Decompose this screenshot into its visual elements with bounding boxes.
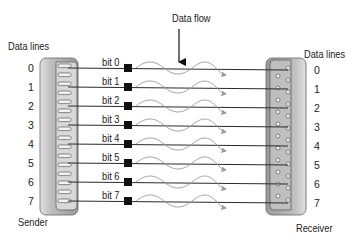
bit-label: bit 4: [102, 132, 119, 144]
bit-label: bit 0: [102, 56, 119, 68]
sender-line-number: 0: [28, 62, 34, 74]
bit-label: bit 5: [102, 151, 119, 163]
sender-data-lines-heading: Data lines: [8, 40, 49, 52]
receiver-line-number: 4: [314, 140, 320, 152]
sender-line-number: 7: [28, 195, 34, 207]
signal-wave-arrows: [136, 62, 226, 208]
diagram-graphics: [0, 0, 354, 242]
bit-label: bit 3: [102, 113, 119, 125]
bit-label: bit 7: [102, 189, 119, 201]
bit-markers: [124, 64, 132, 205]
sender-line-number: 6: [28, 176, 34, 188]
sender-line-number: 2: [28, 100, 34, 112]
data-wires: [68, 68, 288, 203]
bit-label: bit 6: [102, 170, 119, 182]
sender-caption: Sender: [18, 216, 48, 228]
parallel-port-diagram: Data flow Data lines Data lines 0 1 2 3 …: [0, 0, 354, 242]
sender-line-number: 1: [28, 81, 34, 93]
bit-label: bit 2: [102, 94, 119, 106]
receiver-line-number: 3: [314, 121, 320, 133]
receiver-line-number: 5: [314, 159, 320, 171]
receiver-line-number: 1: [314, 83, 320, 95]
receiver-line-number: 0: [314, 64, 320, 76]
receiver-line-number: 6: [314, 178, 320, 190]
receiver-line-number: 7: [314, 197, 320, 209]
receiver-caption: Receiver: [296, 222, 332, 234]
sender-line-number: 5: [28, 157, 34, 169]
data-flow-label: Data flow: [172, 12, 211, 24]
receiver-line-number: 2: [314, 102, 320, 114]
sender-line-number: 4: [28, 138, 34, 150]
receiver-connector-icon: [266, 58, 306, 215]
sender-line-number: 3: [28, 119, 34, 131]
receiver-data-lines-heading: Data lines: [304, 48, 345, 60]
sender-connector-icon: [40, 58, 78, 215]
bit-label: bit 1: [102, 75, 119, 87]
